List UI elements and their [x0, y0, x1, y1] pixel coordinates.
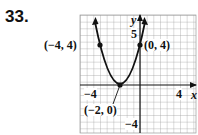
x-axis-label: x	[191, 89, 197, 101]
x-tick-neg4: −4	[84, 88, 97, 100]
x-tick-4: 4	[176, 88, 182, 100]
label-point-neg4-4: (−4, 4)	[44, 39, 77, 51]
point-neg4-4	[97, 42, 102, 47]
y-axis-label: y	[131, 14, 136, 26]
label-point-neg2-0: (−2, 0)	[84, 104, 117, 116]
y-tick-5: 5	[131, 28, 137, 40]
point-0-4	[137, 42, 142, 47]
y-tick-neg4: −4	[125, 118, 138, 130]
label-point-0-4: (0, 4)	[144, 39, 170, 51]
